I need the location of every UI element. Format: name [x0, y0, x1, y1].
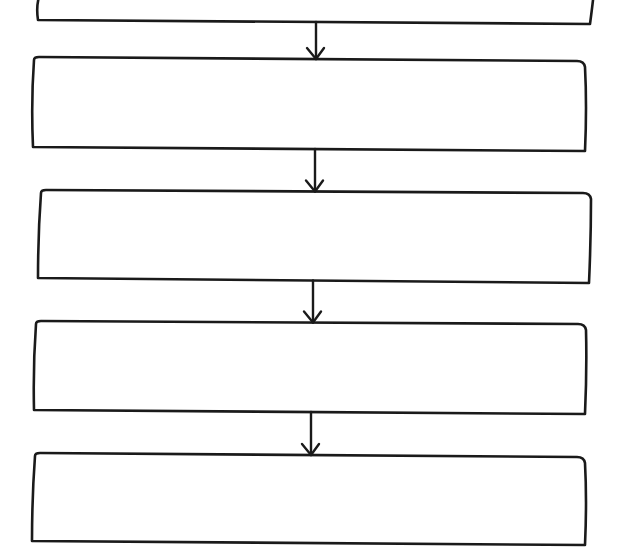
flowchart-diagram	[0, 0, 618, 552]
box-outline	[32, 453, 586, 545]
flowchart-box-step-3	[38, 190, 591, 283]
box-outline	[37, 0, 593, 24]
flowchart-boxes	[32, 0, 593, 545]
flowchart-box-step-5	[32, 453, 586, 545]
arrow-step-1-to-step-2	[307, 22, 324, 59]
flowchart-box-step-4	[34, 321, 587, 414]
box-outline	[38, 190, 591, 283]
arrow-step-2-to-step-3	[306, 149, 323, 191]
flowchart-box-step-1	[37, 0, 593, 24]
flowchart-box-step-2	[32, 57, 586, 151]
box-outline	[32, 57, 586, 151]
arrow-step-4-to-step-5	[302, 412, 319, 455]
arrow-step-3-to-step-4	[304, 280, 321, 322]
box-outline	[34, 321, 587, 414]
